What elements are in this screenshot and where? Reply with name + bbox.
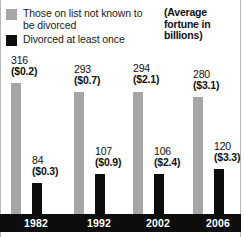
bar-2006-divorced <box>214 169 224 214</box>
label-1992-not-divorced: 293 ($0.7) <box>74 64 100 86</box>
bar-2002-divorced <box>154 174 164 214</box>
axis-tick-2002: 2002 <box>130 217 186 229</box>
chart-container: Those on list not known to be divorced D… <box>0 0 245 237</box>
legend-swatch-black-icon <box>6 35 17 46</box>
bar-group-2006: 280 ($3.1) 120 ($3.3) <box>193 55 245 214</box>
bar-1992-divorced <box>95 174 105 214</box>
bar-group-2002: 294 ($2.1) 106 ($2.4) <box>133 55 185 214</box>
label-1992-divorced: 107 ($0.9) <box>95 146 121 168</box>
x-axis-band: 1982 1992 2002 2006 <box>0 214 241 232</box>
plot-area: 316 ($0.2) 84 ($0.3) 293 ($0.7) 107 ($0.… <box>0 55 241 214</box>
average-fortune-note: (Average fortune in billions) <box>164 7 240 42</box>
label-2006-divorced: 120 ($3.3) <box>214 141 240 163</box>
legend-label-divorced: Divorced at least once <box>23 34 125 46</box>
bar-group-1992: 293 ($0.7) 107 ($0.9) <box>74 55 126 214</box>
label-1982-not-divorced: 316 ($0.2) <box>11 55 37 77</box>
label-1982-divorced: 84 ($0.3) <box>32 155 58 177</box>
legend-label-not-divorced: Those on list not known to be divorced <box>23 8 146 31</box>
bar-2006-not-divorced <box>193 97 203 214</box>
bar-group-1982: 316 ($0.2) 84 ($0.3) <box>11 55 63 214</box>
axis-tick-1992: 1992 <box>71 217 127 229</box>
bar-1992-not-divorced <box>74 92 84 214</box>
bar-2002-not-divorced <box>133 92 143 214</box>
axis-tick-2006: 2006 <box>190 217 245 229</box>
axis-tick-1982: 1982 <box>8 217 64 229</box>
bar-1982-divorced <box>32 183 42 214</box>
chart-legend: Those on list not known to be divorced D… <box>6 8 146 49</box>
bar-1982-not-divorced <box>11 83 21 214</box>
legend-item-divorced: Divorced at least once <box>6 34 146 46</box>
label-2006-not-divorced: 280 ($3.1) <box>193 69 219 91</box>
label-2002-not-divorced: 294 ($2.1) <box>133 63 159 85</box>
legend-swatch-gray-icon <box>6 9 17 20</box>
legend-item-not-divorced: Those on list not known to be divorced <box>6 8 146 31</box>
label-2002-divorced: 106 ($2.4) <box>154 146 180 168</box>
